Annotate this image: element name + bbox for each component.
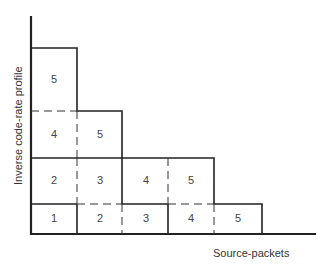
staircase-diagram: 123452345455 Source-packets Inverse code… bbox=[0, 0, 329, 271]
solid-block-outlines bbox=[31, 48, 262, 234]
cell-number: 5 bbox=[188, 174, 194, 186]
cell-number: 5 bbox=[97, 128, 103, 140]
cell-number: 1 bbox=[51, 212, 57, 224]
cell-number: 4 bbox=[143, 174, 149, 186]
cell-labels: 123452345455 bbox=[51, 73, 241, 224]
cell-number: 3 bbox=[143, 212, 149, 224]
cell-number: 4 bbox=[51, 128, 57, 140]
cell-number: 4 bbox=[188, 212, 194, 224]
cell-number: 5 bbox=[235, 212, 241, 224]
cell-number: 3 bbox=[97, 174, 103, 186]
y-axis-label: Inverse code-rate profile bbox=[12, 66, 24, 185]
cell-number: 5 bbox=[51, 73, 57, 85]
cell-number: 2 bbox=[51, 174, 57, 186]
x-axis-label: Source-packets bbox=[213, 247, 290, 259]
cell-number: 2 bbox=[97, 212, 103, 224]
